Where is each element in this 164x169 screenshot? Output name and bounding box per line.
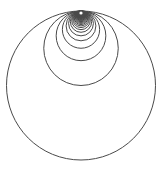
circle-chain: [7, 11, 156, 160]
tangent-point-marker: [79, 11, 82, 14]
tangent-circles-diagram: [0, 0, 164, 169]
